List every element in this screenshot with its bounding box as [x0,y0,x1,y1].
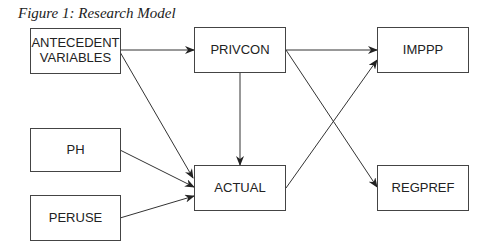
node-label: ANTECEDENT [31,36,119,51]
node-label: PRIVCON [210,43,269,58]
node-ph: PH [30,128,121,172]
node-label: VARIABLES [40,51,111,66]
node-actual: ACTUAL [194,165,286,211]
node-peruse: PERUSE [30,195,121,241]
node-imppp: IMPPP [377,27,469,73]
node-label: PH [66,143,84,158]
node-label: ACTUAL [214,181,265,196]
edge-actual-imppp [286,60,377,188]
node-label: IMPPP [403,43,443,58]
edge-ph-actual [120,150,194,187]
node-privcon: PRIVCON [194,27,286,73]
edge-peruse-actual [120,196,194,218]
node-antecedent-variables: ANTECEDENT VARIABLES [30,28,121,74]
node-label: REGPREF [392,181,455,196]
edge-privcon-regpref [286,50,377,187]
node-label: PERUSE [49,211,102,226]
node-regpref: REGPREF [377,165,469,211]
edge-antecedent-actual [120,52,193,178]
